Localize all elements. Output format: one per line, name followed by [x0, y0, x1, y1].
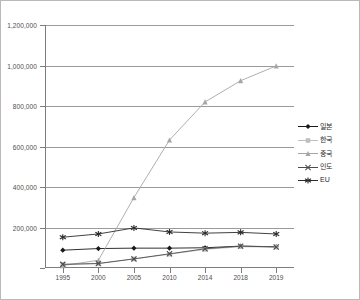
x-axis-tick — [134, 268, 135, 273]
data-point-triangle — [238, 78, 243, 83]
series-layer — [45, 25, 295, 269]
data-point-diamond — [60, 248, 65, 253]
chart-figure: 1,200,0001,000,000800,000600,000400,0002… — [0, 0, 360, 300]
x-axis-tick-label: 1995 — [43, 274, 83, 281]
x-axis-tick — [276, 268, 277, 273]
x-axis-tick — [241, 268, 242, 273]
x-axis-tick-label: 2005 — [114, 274, 154, 281]
legend-marker-diamond-icon — [297, 119, 319, 132]
y-axis-tick-label: 800,000 — [0, 103, 37, 110]
legend-label: 인도 — [319, 161, 332, 171]
legend-item-일본[interactable]: 일본 — [297, 119, 357, 133]
x-axis-tick-label: 2010 — [150, 274, 190, 281]
series-일본 — [60, 244, 279, 253]
y-axis-tick-label: 1,200,000 — [0, 22, 37, 29]
x-axis-tick-label: 2019 — [256, 274, 296, 281]
legend-label: EU — [319, 176, 330, 183]
x-axis-tick — [170, 268, 171, 273]
x-axis-tick — [205, 268, 206, 273]
legend-label: 일본 — [319, 121, 332, 131]
series-EU — [60, 225, 279, 240]
series-중국 — [60, 63, 279, 268]
data-point-square — [306, 138, 311, 143]
legend-item-EU[interactable]: EU — [297, 173, 357, 187]
legend-item-한국[interactable]: 한국 — [297, 133, 357, 147]
legend-item-인도[interactable]: 인도 — [297, 160, 357, 174]
legend-marker-square-icon — [297, 133, 319, 146]
x-axis-tick-label: 2000 — [78, 274, 118, 281]
x-axis-tick-label: 2014 — [185, 274, 225, 281]
y-axis-tick-label: 200,000 — [0, 224, 37, 231]
legend-marker-asterisk-icon — [297, 173, 319, 186]
x-axis-tick — [98, 268, 99, 273]
data-point-diamond — [96, 246, 101, 251]
x-axis-tick — [63, 268, 64, 273]
data-point-triangle — [131, 195, 136, 200]
y-axis-tick-label: 400,000 — [0, 184, 37, 191]
legend-label: 한국 — [319, 134, 332, 144]
y-axis-tick-label: 600,000 — [0, 143, 37, 150]
x-axis-tick-label: 2018 — [221, 274, 261, 281]
data-point-diamond — [167, 246, 172, 251]
legend-item-중국[interactable]: 중국 — [297, 146, 357, 160]
legend-marker-x-icon — [297, 160, 319, 173]
legend-label: 중국 — [319, 148, 332, 158]
y-axis-tick-label: 1,000,000 — [0, 62, 37, 69]
data-point-diamond — [305, 124, 310, 129]
legend-marker-triangle-icon — [297, 146, 319, 159]
data-point-triangle — [274, 63, 279, 68]
data-point-triangle — [202, 99, 207, 104]
data-point-diamond — [131, 246, 136, 251]
series-line — [63, 66, 276, 266]
chart-legend: 일본한국중국인도EU — [297, 119, 357, 187]
